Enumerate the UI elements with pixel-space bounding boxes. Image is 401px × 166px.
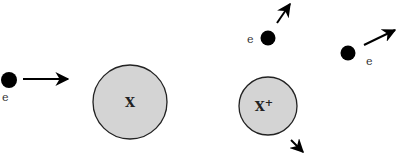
- scattered-electron-2-label: e: [366, 55, 373, 68]
- atom-label: X: [125, 95, 136, 110]
- scattered-electron-1: [261, 31, 276, 46]
- ionization-diagram: e X e e X+: [0, 0, 401, 166]
- ion-charge: +: [265, 97, 273, 108]
- electron-2-arrow-icon: [364, 30, 395, 45]
- electron-1-arrow-icon: [277, 4, 290, 23]
- scattered-electron-2: [341, 46, 356, 61]
- incoming-electron: [1, 72, 17, 88]
- ion-arrow-icon: [291, 140, 303, 152]
- scattered-electron-1-label: e: [247, 33, 254, 46]
- incoming-electron-label: e: [2, 91, 9, 104]
